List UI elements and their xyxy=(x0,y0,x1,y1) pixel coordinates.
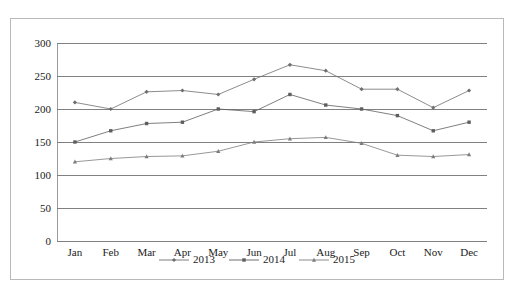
gridline xyxy=(57,241,487,242)
data-point-marker xyxy=(145,122,148,125)
y-tick-label: 100 xyxy=(35,169,52,181)
data-point-marker xyxy=(431,106,435,110)
data-point-marker xyxy=(288,63,292,67)
chart-legend: 201320142015 xyxy=(11,254,503,265)
data-point-marker xyxy=(288,93,291,96)
data-point-marker xyxy=(252,110,255,113)
data-point-marker xyxy=(109,129,112,132)
y-tick-label: 250 xyxy=(35,70,52,82)
data-point-marker xyxy=(395,87,399,91)
legend-label: 2014 xyxy=(263,254,285,265)
y-tick-label: 50 xyxy=(40,202,51,214)
chart-series-svg xyxy=(57,43,487,241)
data-point-marker xyxy=(467,88,471,92)
data-point-marker xyxy=(181,121,184,124)
y-tick-label: 200 xyxy=(35,103,52,115)
data-point-marker xyxy=(216,92,220,96)
series-line xyxy=(75,94,469,142)
legend-marker-diamond-icon xyxy=(159,255,189,265)
chart-figure: Number of Crimes 050100150200250300 JanF… xyxy=(10,18,504,280)
legend-marker-square-icon xyxy=(229,255,259,265)
data-point-marker xyxy=(252,77,256,81)
data-point-marker xyxy=(396,114,399,117)
data-point-marker xyxy=(180,88,184,92)
data-point-marker xyxy=(359,87,363,91)
data-point-marker xyxy=(73,100,77,104)
data-point-marker xyxy=(242,258,245,261)
legend-item-2014[interactable]: 2014 xyxy=(229,254,285,265)
data-point-marker xyxy=(467,121,470,124)
data-point-marker xyxy=(432,129,435,132)
y-tick-label: 0 xyxy=(46,235,52,247)
data-point-marker xyxy=(109,107,113,111)
legend-label: 2015 xyxy=(333,254,355,265)
data-point-marker xyxy=(144,90,148,94)
plot-area: 050100150200250300 JanFebMarAprMayJunJul… xyxy=(57,43,487,241)
series-2013 xyxy=(73,63,471,111)
legend-item-2013[interactable]: 2013 xyxy=(159,254,215,265)
data-point-marker xyxy=(172,257,176,261)
series-line xyxy=(75,137,469,161)
data-point-marker xyxy=(324,69,328,73)
y-tick-label: 300 xyxy=(35,37,52,49)
legend-item-2015[interactable]: 2015 xyxy=(299,254,355,265)
series-2015 xyxy=(73,135,471,163)
y-tick-label: 150 xyxy=(35,136,52,148)
data-point-marker xyxy=(324,103,327,106)
data-point-marker xyxy=(73,140,76,143)
legend-label: 2013 xyxy=(193,254,215,265)
series-2014 xyxy=(73,93,471,144)
data-point-marker xyxy=(217,107,220,110)
data-point-marker xyxy=(360,107,363,110)
legend-marker-triangle-icon xyxy=(299,255,329,265)
series-line xyxy=(75,65,469,109)
